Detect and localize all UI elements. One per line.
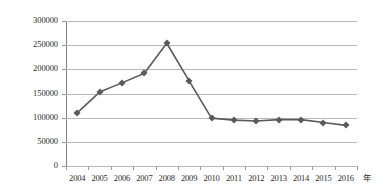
y-axis-tick-label: 250000	[33, 40, 58, 49]
x-axis-tick-mark	[200, 166, 201, 170]
x-axis-tick-label: 2016	[333, 173, 359, 183]
x-axis-unit-label: 年	[363, 173, 372, 183]
x-axis-tick-mark	[111, 166, 112, 170]
x-axis-tick-mark	[156, 166, 157, 170]
y-axis-tick-label: 50000	[37, 137, 58, 146]
y-axis-tick-label: 150000	[33, 89, 58, 98]
line-chart: 050000100000150000200000250000300000 200…	[0, 0, 389, 195]
x-axis-tick-mark	[335, 166, 336, 170]
x-axis-tick-mark	[133, 166, 134, 170]
x-axis-tick-mark	[88, 166, 89, 170]
series-line	[66, 21, 357, 166]
x-axis-tick-mark	[245, 166, 246, 170]
x-axis-tick-mark	[66, 166, 67, 170]
x-axis-tick-mark	[312, 166, 313, 170]
plot-area	[66, 21, 357, 166]
x-axis-tick-mark	[178, 166, 179, 170]
x-axis-tick-mark	[290, 166, 291, 170]
x-axis-tick-mark	[357, 166, 358, 170]
y-axis-tick-label: 300000	[33, 16, 58, 25]
y-axis-tick-label: 0	[54, 161, 58, 170]
x-axis-tick-mark	[223, 166, 224, 170]
y-axis-tick-label: 200000	[33, 64, 58, 73]
y-axis-tick-label: 100000	[33, 113, 58, 122]
x-axis-tick-mark	[267, 166, 268, 170]
